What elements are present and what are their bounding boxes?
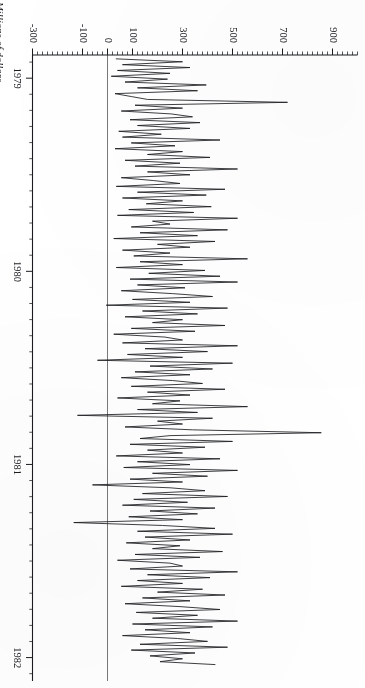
y-axis-tick-label: -100 <box>78 24 89 43</box>
y-axis-title: Millions of dollars <box>0 2 4 82</box>
line-chart: 9007005003001000-100-3001979198019811982 <box>0 0 365 688</box>
rotated-plot-wrapper: 9007005003001000-100-3001979198019811982… <box>0 0 365 688</box>
y-axis-tick-label: 100 <box>128 27 139 43</box>
y-axis-tick-label: 0 <box>103 38 114 43</box>
y-axis-tick-label: 700 <box>278 27 289 43</box>
x-axis-tick-label: 1982 <box>11 647 22 668</box>
y-axis-tick-label: 900 <box>328 27 339 43</box>
x-axis-tick-label: 1979 <box>11 68 22 89</box>
x-axis-tick-label: 1981 <box>11 454 22 475</box>
y-axis-tick-label: -300 <box>28 24 39 43</box>
y-axis-tick-label: 300 <box>178 27 189 43</box>
figure-canvas: 9007005003001000-100-3001979198019811982… <box>0 0 365 688</box>
data-series-line-1 <box>73 59 321 665</box>
y-axis-tick-label: 500 <box>228 27 239 43</box>
x-axis-tick-label: 1980 <box>11 261 22 282</box>
